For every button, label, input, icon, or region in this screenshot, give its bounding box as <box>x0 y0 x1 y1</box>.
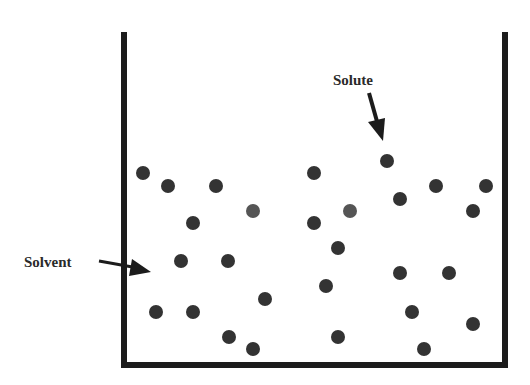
particle <box>417 342 431 356</box>
solute-arrow-icon <box>368 93 385 141</box>
particle <box>393 266 407 280</box>
particle <box>466 204 480 218</box>
particle <box>186 305 200 319</box>
particle <box>136 166 150 180</box>
particle <box>393 192 407 206</box>
particle <box>442 266 456 280</box>
particle <box>246 342 260 356</box>
solute-particles <box>136 154 493 356</box>
solute-label: Solute <box>333 72 373 88</box>
particle <box>307 166 321 180</box>
particle <box>221 254 235 268</box>
solvent-label: Solvent <box>24 254 72 270</box>
particle <box>246 204 260 218</box>
particle <box>149 305 163 319</box>
particle <box>161 179 175 193</box>
particle <box>380 154 394 168</box>
particle <box>174 254 188 268</box>
particle <box>331 330 345 344</box>
particle <box>186 216 200 230</box>
particle <box>479 179 493 193</box>
particle <box>343 204 357 218</box>
particle <box>258 292 272 306</box>
particle <box>429 179 443 193</box>
particle <box>466 317 480 331</box>
particle <box>331 241 345 255</box>
beaker-container <box>124 32 505 365</box>
particle <box>319 279 333 293</box>
particle <box>307 216 321 230</box>
particle <box>209 179 223 193</box>
solution-diagram: Solvent Solute <box>0 0 530 385</box>
particle <box>222 330 236 344</box>
particle <box>405 305 419 319</box>
